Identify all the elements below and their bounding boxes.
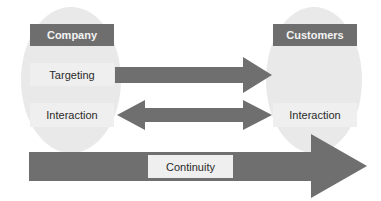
company-interaction-label: Interaction xyxy=(30,103,114,127)
continuity-label: Continuity xyxy=(148,155,233,178)
customers-header: Customers xyxy=(273,24,357,46)
company-header: Company xyxy=(30,24,114,46)
targeting-arrow xyxy=(115,57,272,93)
interaction-double-arrow xyxy=(117,100,272,130)
targeting-label: Targeting xyxy=(30,63,114,86)
customers-interaction-label: Interaction xyxy=(273,103,357,127)
